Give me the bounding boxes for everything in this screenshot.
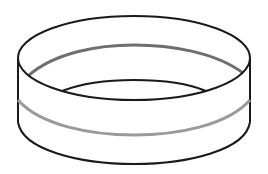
- cylinder-band-drawing: [0, 0, 268, 174]
- inner-back-stripe: [28, 45, 243, 76]
- cylinder-band-figure: [0, 0, 268, 174]
- outer-front-stripe: [18, 100, 250, 135]
- inner-bottom-edge: [62, 80, 206, 91]
- bottom-edge: [18, 122, 250, 164]
